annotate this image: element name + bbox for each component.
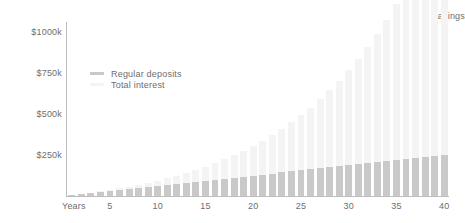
legend-swatch-icon bbox=[90, 72, 104, 75]
legend-label: Total interest bbox=[111, 80, 165, 90]
legend-swatch-icon bbox=[90, 83, 104, 86]
x-tick-label: 20 bbox=[238, 201, 268, 211]
x-tick-label: 35 bbox=[381, 201, 411, 211]
x-tick-label: 30 bbox=[334, 201, 364, 211]
legend-item[interactable]: Regular deposits bbox=[90, 68, 182, 79]
x-tick-label: 10 bbox=[143, 201, 173, 211]
chart-legend: Regular depositsTotal interest bbox=[90, 68, 182, 90]
x-tick-label: 25 bbox=[286, 201, 316, 211]
savings-growth-chart: Savings $1000k$750k$500k$250k Years 5101… bbox=[0, 0, 465, 223]
x-axis-tick-labels: 510152025303540 bbox=[0, 0, 465, 223]
legend-label: Regular deposits bbox=[111, 69, 182, 79]
x-tick-label: 15 bbox=[190, 201, 220, 211]
x-tick-label: 40 bbox=[429, 201, 459, 211]
x-tick-label: 5 bbox=[95, 201, 125, 211]
legend-item[interactable]: Total interest bbox=[90, 79, 182, 90]
